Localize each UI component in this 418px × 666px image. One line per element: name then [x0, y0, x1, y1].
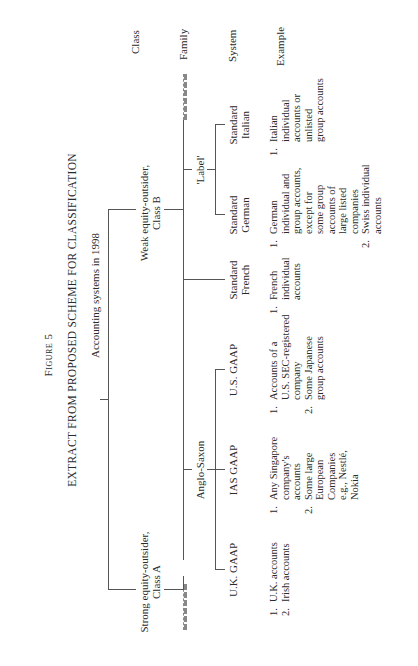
example-line: company [291, 315, 303, 414]
example-line: 2.Irish accounts [280, 542, 292, 616]
family-bar-dashed-left [183, 584, 187, 630]
example-line: companies [349, 164, 361, 248]
example-line: individual [280, 257, 292, 314]
header-class: Class [129, 30, 141, 54]
example-line: U.S. SEC-registered [280, 315, 292, 414]
family-bar-dashed-right [183, 74, 187, 120]
label-family-stem [207, 169, 215, 170]
system-line: Italian [239, 105, 251, 144]
example-line: accounts [291, 437, 303, 514]
system-line: Standard [227, 260, 239, 299]
class-b-stem [164, 209, 183, 210]
example-line: accounts of [326, 164, 338, 248]
system-line: Standard [227, 195, 239, 234]
example-item-number: 2. [280, 602, 292, 616]
example-line: European [314, 437, 326, 514]
example-line: 2.Swiss individual [360, 164, 372, 248]
system-us-gaap: U.S. GAAP [227, 344, 239, 396]
example-line: individual and [280, 164, 292, 248]
class-b-label: Weak equity-outsider, Class B [138, 165, 162, 261]
example-item-number: 1. [268, 400, 280, 414]
example-line: 1.Italian [268, 78, 280, 156]
example-item-number: 1. [268, 300, 280, 314]
example-line: e.g., Nestlé, [337, 437, 349, 514]
example-item-number: 1. [268, 234, 280, 248]
example-line: 1.Accounts of a [268, 315, 280, 414]
anglo-saxon-drop [183, 469, 192, 470]
system-standard-french: Standard French [227, 260, 251, 299]
family-bar-main [183, 120, 184, 560]
ias-gaap-drop [215, 469, 225, 470]
uk-gaap-drop [215, 569, 225, 570]
family-bar-a [183, 576, 184, 590]
example-item-number: 2. [303, 400, 315, 414]
example-line: 2.Some large [303, 437, 315, 514]
example-line: 1.Any Singapore [268, 437, 280, 514]
example-item-number: 1. [268, 602, 280, 616]
example-line: 1.French [268, 257, 280, 314]
example-french: 1.Frenchindividualaccounts [268, 257, 303, 314]
system-uk-gaap: U.K. GAAP [227, 543, 239, 597]
system-ias-gaap: IAS GAAP [227, 445, 239, 495]
french-drop [183, 279, 225, 280]
class-a-drop [108, 589, 136, 590]
example-line: group accounts [314, 315, 326, 414]
example-item-number: 2. [360, 234, 372, 248]
class-bar [108, 210, 109, 590]
system-standard-italian: Standard Italian [227, 105, 251, 144]
example-line: Nokia [349, 437, 361, 514]
class-a-label: Strong equity-outsider, Class A [138, 532, 162, 633]
family-label: 'Label' [194, 155, 206, 184]
class-b-drop [108, 209, 136, 210]
example-line: company's [280, 437, 292, 514]
root-label: Accounting systems in 1998 [89, 233, 101, 358]
figure-title: EXTRACT FROM PROPOSED SCHEME FOR CLASSIF… [66, 153, 78, 487]
example-line: except for [303, 164, 315, 248]
example-line: unlisted [303, 78, 315, 156]
example-line: group accounts, [291, 164, 303, 248]
example-line: accounts [372, 164, 384, 248]
example-line: accounts or [291, 78, 303, 156]
rotated-figure-page: Figure 5 EXTRACT FROM PROPOSED SCHEME FO… [0, 0, 418, 666]
example-uk: 1.U.K. accounts2.Irish accounts [268, 542, 291, 616]
example-german: 1.Germanindividual andgroup accounts,exc… [268, 164, 383, 248]
example-line: group accounts [314, 78, 326, 156]
example-line: 1.German [268, 164, 280, 248]
anglo-saxon-system-bar [215, 370, 216, 570]
example-line: 1.U.K. accounts [268, 542, 280, 616]
anglo-saxon-stem [207, 469, 215, 470]
system-line: Standard [227, 105, 239, 144]
figure-number: Figure 5 [42, 334, 54, 377]
label-family-drop [183, 169, 192, 170]
example-line: some group [314, 164, 326, 248]
example-line: 2.Some Japanese [303, 315, 315, 414]
header-example: Example [274, 27, 286, 66]
us-gaap-drop [215, 369, 225, 370]
example-line: accounts [291, 257, 303, 314]
system-line: German [239, 195, 251, 234]
header-system: System [226, 30, 238, 62]
root-connector [100, 399, 108, 400]
class-a-line2: Class A [150, 532, 162, 633]
class-b-line1: Weak equity-outsider, [138, 165, 150, 261]
system-line: French [239, 260, 251, 299]
header-family: Family [177, 29, 189, 60]
class-a-stem [164, 589, 183, 590]
example-line: individual [280, 78, 292, 156]
example-item-number: 1. [268, 500, 280, 514]
example-line: Companies [326, 437, 338, 514]
system-standard-german: Standard German [227, 195, 251, 234]
class-a-line1: Strong equity-outsider, [138, 532, 150, 633]
example-italian: 1.Italianindividualaccounts orunlistedgr… [268, 78, 326, 156]
example-item-number: 1. [268, 142, 280, 156]
example-ias: 1.Any Singaporecompany'saccounts2.Some l… [268, 437, 360, 514]
example-line: large listed [337, 164, 349, 248]
italian-drop [215, 124, 225, 125]
german-drop [215, 214, 225, 215]
example-us: 1.Accounts of aU.S. SEC-registeredcompan… [268, 315, 326, 414]
example-item-number: 2. [303, 500, 315, 514]
class-b-line2: Class B [150, 165, 162, 261]
label-system-bar [215, 125, 216, 215]
family-anglo-saxon: Anglo-Saxon [194, 441, 206, 500]
